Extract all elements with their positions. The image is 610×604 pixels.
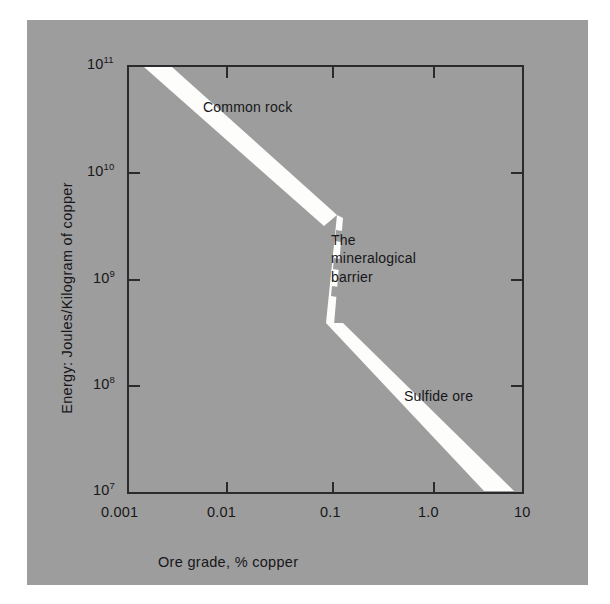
barrier-gap-3 — [331, 286, 338, 297]
x-axis-ticks-top — [227, 66, 434, 78]
data-bands — [144, 67, 514, 491]
annotation-barrier-line-1: The — [331, 231, 416, 249]
x-axis-title: Ore grade, % copper — [158, 554, 298, 570]
y-tick-label-1e8: 108 — [93, 376, 115, 392]
annotation-mineralogical-barrier: The mineralogical barrier — [331, 231, 416, 286]
annotation-barrier-line-2: mineralogical — [331, 249, 416, 267]
x-axis-ticks — [128, 482, 523, 493]
y-tick-label-1e11: 1011 — [87, 56, 114, 72]
x-tick-label-3: 1.0 — [418, 504, 439, 520]
x-tick-label-1: 0.01 — [207, 504, 236, 520]
y-axis-ticks-right — [511, 173, 523, 386]
y-tick-label-1e9: 109 — [93, 270, 115, 286]
chart-panel: 1011 1010 109 108 107 0.001 0.01 0.1 1.0… — [27, 20, 588, 585]
annotation-sulfide-ore: Sulfide ore — [404, 387, 473, 405]
band-common-rock — [144, 67, 337, 226]
y-axis-ticks — [128, 173, 140, 386]
annotation-barrier-line-3: barrier — [331, 268, 416, 286]
y-axis-title: Energy: Joules/Kilogram of copper — [59, 168, 75, 428]
figure-canvas: 1011 1010 109 108 107 0.001 0.01 0.1 1.0… — [0, 0, 610, 604]
axis-frame — [128, 66, 523, 493]
y-tick-label-1e10: 1010 — [87, 163, 115, 179]
y-tick-label-1e7: 107 — [93, 482, 115, 498]
chart-plot-area — [27, 20, 588, 585]
x-tick-label-2: 0.1 — [320, 504, 341, 520]
band-sulfide-ore — [326, 323, 514, 491]
x-tick-label-0: 0.001 — [101, 504, 138, 520]
plot-frame-rect — [128, 66, 523, 493]
annotation-common-rock: Common rock — [203, 98, 292, 116]
x-tick-label-4: 10 — [514, 504, 531, 520]
